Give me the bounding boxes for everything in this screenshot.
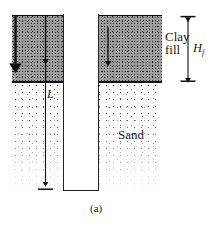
sand-label: Sand bbox=[118, 128, 144, 141]
hf-label: Hf bbox=[193, 42, 204, 57]
clay-fill-label: Clay fill bbox=[165, 30, 190, 56]
hf-subscript: f bbox=[202, 48, 204, 57]
figure-caption: (a) bbox=[90, 203, 102, 214]
hf-symbol: H bbox=[193, 41, 202, 55]
soil-pile-diagram: z L Clay fill Hf Sand (a) bbox=[0, 0, 213, 225]
length-label-L: L bbox=[47, 88, 54, 100]
depth-label-z: z bbox=[8, 63, 16, 66]
clay-fill-label-line2: fill bbox=[165, 42, 180, 57]
